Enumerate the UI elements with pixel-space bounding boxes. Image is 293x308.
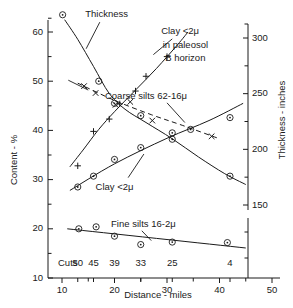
figure-container: 1020304050601502002503001020304050Conten… — [0, 0, 293, 308]
y-axis-title: Content - % — [8, 134, 19, 185]
marker-circle-dot — [78, 228, 80, 230]
annotation-label-2: in paleosol — [163, 39, 208, 50]
y-tick-label: 10 — [32, 272, 43, 283]
leader-fine-silts — [142, 231, 151, 241]
x-tick-label: 10 — [57, 284, 68, 295]
y-tick-label: 40 — [32, 124, 43, 135]
marker-circle-dot — [114, 159, 116, 161]
marker-circle-dot — [98, 80, 100, 82]
marker-circle-dot — [171, 241, 173, 243]
marker-circle-dot — [140, 115, 142, 117]
annotation-label-5: Clay <2μ — [96, 181, 134, 192]
cuts-value: 33 — [135, 257, 146, 268]
chart-svg: 1020304050601502002503001020304050Conten… — [0, 0, 293, 308]
x-tick-label: 20 — [109, 284, 120, 295]
x-tick-label: 50 — [267, 284, 278, 295]
x-tick-label: 40 — [214, 284, 225, 295]
marker-circle-dot — [114, 235, 116, 237]
marker-circle-dot — [229, 175, 231, 177]
y2-axis-title: Thickness - inches — [276, 80, 287, 159]
marker-circle-dot — [93, 175, 95, 177]
y-tick-label: 20 — [32, 222, 43, 233]
leader-coarse-silts — [167, 103, 185, 123]
marker-circle-dot — [226, 242, 228, 244]
cuts-value: 4 — [227, 257, 232, 268]
marker-circle-dot — [229, 117, 231, 119]
cuts-value: 39 — [109, 257, 120, 268]
x-axis-title: Distance - miles — [124, 289, 192, 300]
annotation-label-4: Coarse silts 62-16μ — [105, 90, 187, 101]
cuts-value: 25 — [167, 257, 178, 268]
annotation-label-6: Fine silts 16-2μ — [111, 218, 176, 229]
marker-circle-dot — [190, 129, 192, 131]
marker-circle-dot — [171, 138, 173, 140]
annotation-label-3: B horizon — [165, 52, 205, 63]
legend-thickness-marker-dot — [62, 14, 64, 16]
y2-tick-label: 300 — [252, 32, 268, 43]
marker-circle-dot — [77, 186, 79, 188]
marker-circle-dot — [171, 132, 173, 134]
cuts-value: 45 — [88, 257, 99, 268]
annotation-label-0: Thickness — [85, 8, 128, 19]
series-curve-4 — [67, 229, 246, 248]
y2-tick-label: 150 — [252, 199, 268, 210]
y-tick-label: 60 — [32, 26, 43, 37]
series-curve-0 — [65, 20, 246, 185]
y2-tick-label: 250 — [252, 87, 268, 98]
marker-circle-dot — [140, 244, 142, 246]
leader-clay — [128, 154, 144, 178]
cuts-value: 50 — [72, 257, 83, 268]
y-tick-label: 30 — [32, 173, 43, 184]
y2-tick-label: 200 — [252, 143, 268, 154]
annotation-label-1: Clay <2μ — [161, 25, 199, 36]
marker-circle-dot — [95, 226, 97, 228]
leader-thickness — [86, 22, 100, 49]
y-tick-label: 50 — [32, 75, 43, 86]
marker-circle-dot — [140, 147, 142, 149]
